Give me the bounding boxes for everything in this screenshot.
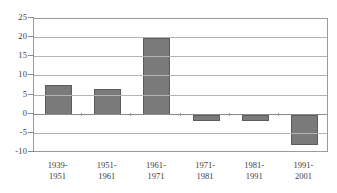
x-axis-category-label: 1951-1961 — [79, 160, 135, 182]
x-axis-category-label-line1: 1991- — [293, 160, 313, 170]
x-axis-category-label-line1: 1939- — [48, 160, 68, 170]
x-axis-tick — [278, 113, 279, 116]
x-axis-category-label-line1: 1961- — [146, 160, 166, 170]
bar-chart: 2520151050-5-10 1939-19511951-19611961-1… — [0, 0, 337, 193]
y-axis-tick — [28, 55, 34, 56]
x-axis-category-label-line1: 1951- — [97, 160, 117, 170]
y-axis-tick — [28, 36, 34, 37]
x-axis-category-label-line1: 1971- — [195, 160, 215, 170]
y-axis-tick — [28, 74, 34, 75]
x-axis-category-label-line2: 1981 — [177, 171, 233, 182]
x-axis-category-label-line2: 1991 — [226, 171, 282, 182]
x-axis-tick — [81, 113, 82, 116]
x-axis-category-label-line2: 1961 — [79, 171, 135, 182]
x-axis-category-label: 1961-1971 — [128, 160, 184, 182]
x-axis-category-label-line2: 1951 — [30, 171, 86, 182]
x-axis-category-label-line2: 1971 — [128, 171, 184, 182]
x-axis-category-label-line2: 2001 — [275, 171, 331, 182]
y-axis-tick — [28, 94, 34, 95]
x-axis-category-label: 1971-1981 — [177, 160, 233, 182]
x-axis-tick — [180, 113, 181, 116]
y-axis-tick — [28, 17, 34, 18]
x-axis-category-label-line1: 1981- — [244, 160, 264, 170]
x-axis-tick — [229, 113, 230, 116]
x-axis-category-label: 1939-1951 — [30, 160, 86, 182]
y-axis-tick — [28, 151, 34, 152]
x-axis-category-label: 1991-2001 — [275, 160, 331, 182]
y-axis-tick — [28, 113, 34, 114]
x-axis-category-label: 1981-1991 — [226, 160, 282, 182]
x-axis-tick — [327, 113, 328, 116]
x-axis-tick — [130, 113, 131, 116]
x-axis-labels: 1939-19511951-19611961-19711971-19811981… — [0, 0, 337, 193]
y-axis-tick — [28, 132, 34, 133]
